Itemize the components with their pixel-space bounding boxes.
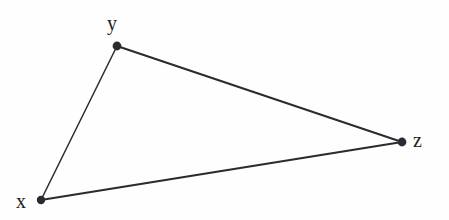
vertex-point-y <box>113 42 122 51</box>
vertex-point-z <box>398 138 407 147</box>
vertex-label-y: y <box>107 13 117 33</box>
vertex-label-x: x <box>16 191 26 211</box>
vertex-point-x <box>37 196 45 204</box>
edge-x-z <box>41 142 402 200</box>
edge-x-y <box>41 46 117 200</box>
triangle-graphic <box>0 0 449 220</box>
vertex-label-z: z <box>413 130 422 150</box>
edge-y-z <box>117 46 402 142</box>
diagram-canvas: x y z <box>0 0 449 220</box>
